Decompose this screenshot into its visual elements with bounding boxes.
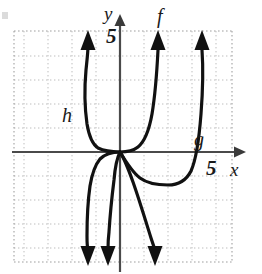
curve-f-upper-branch	[120, 50, 158, 152]
curve-g-path	[120, 50, 203, 185]
curve-h-up-arrowhead	[81, 30, 96, 50]
y-axis-tick-label-5: 5	[106, 26, 117, 47]
curve-f-up-arrowhead	[151, 30, 166, 50]
axes	[12, 14, 246, 272]
x-axis-arrowhead	[234, 147, 246, 158]
curve-f-down-right-arrowhead	[148, 246, 163, 266]
curve-g	[120, 50, 203, 185]
curve-h-down-arrowhead	[81, 246, 96, 266]
coordinate-plot	[0, 0, 262, 274]
curve-f-lower-left-branch	[108, 152, 120, 250]
curve-h-upper-branch	[85, 46, 120, 152]
curve-label-h: h	[62, 105, 72, 125]
x-axis-tick-label-5: 5	[206, 158, 217, 179]
curve-g-up-arrowhead	[195, 30, 210, 50]
graph-figure: y x 5 5 f g h	[0, 0, 262, 274]
curve-label-f: f	[157, 6, 163, 26]
curve-h	[85, 46, 120, 250]
y-axis-label: y	[104, 4, 112, 23]
curve-label-g: g	[194, 129, 204, 149]
x-axis-label: x	[230, 160, 238, 179]
curve-f-down-left-arrowhead	[101, 246, 116, 266]
curve-f-lower-right-branch	[120, 152, 155, 250]
